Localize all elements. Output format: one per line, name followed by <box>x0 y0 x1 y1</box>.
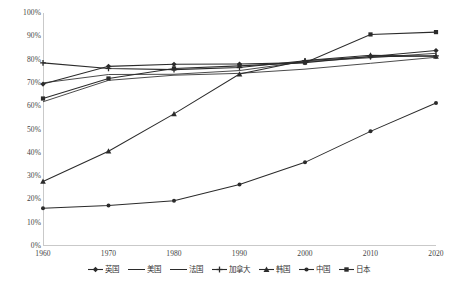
legend-marker-icon <box>170 265 187 274</box>
legend-item[interactable]: 加拿大 <box>212 265 250 274</box>
legend-item[interactable]: 英国 <box>88 265 119 274</box>
legend-item[interactable]: 美国 <box>128 265 161 274</box>
legend-marker-icon <box>299 265 314 274</box>
legend-label: 加拿大 <box>229 265 250 274</box>
legend-item[interactable]: 法国 <box>170 265 203 274</box>
chart-legend: 英国美国法国加拿大韩国中国日本 <box>0 262 457 276</box>
series-5 <box>40 52 439 184</box>
legend-marker-icon <box>212 265 227 274</box>
legend-marker-icon <box>259 265 274 274</box>
legend-label: 中国 <box>316 265 330 274</box>
legend-label: 韩国 <box>276 265 290 274</box>
legend-label: 英国 <box>105 265 119 274</box>
legend-item[interactable]: 中国 <box>299 265 330 274</box>
legend-label: 法国 <box>189 265 203 274</box>
chart-container: 0%10%20%30%40%50%60%70%80%90%100% 196019… <box>0 0 457 288</box>
series-6 <box>41 101 438 210</box>
legend-marker-icon <box>128 265 145 274</box>
legend-label: 美国 <box>147 265 161 274</box>
legend-item[interactable]: 日本 <box>339 265 370 274</box>
legend-label: 日本 <box>356 265 370 274</box>
series-lines <box>0 0 457 288</box>
series-7 <box>41 30 438 101</box>
legend-marker-icon <box>88 265 103 274</box>
legend-marker-icon <box>339 265 354 274</box>
legend-item[interactable]: 韩国 <box>259 265 290 274</box>
